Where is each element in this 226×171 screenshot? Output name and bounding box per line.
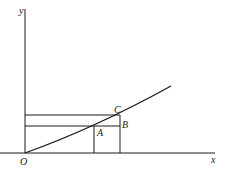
point-label-b: B — [122, 119, 128, 130]
diagram-canvas: y x O A B C — [0, 0, 226, 171]
origin-label: O — [20, 156, 27, 167]
point-label-c: C — [114, 104, 121, 115]
y-axis-label: y — [18, 5, 24, 16]
x-axis-label: x — [210, 154, 216, 165]
point-label-a: A — [96, 127, 104, 138]
function-curve — [25, 86, 171, 153]
